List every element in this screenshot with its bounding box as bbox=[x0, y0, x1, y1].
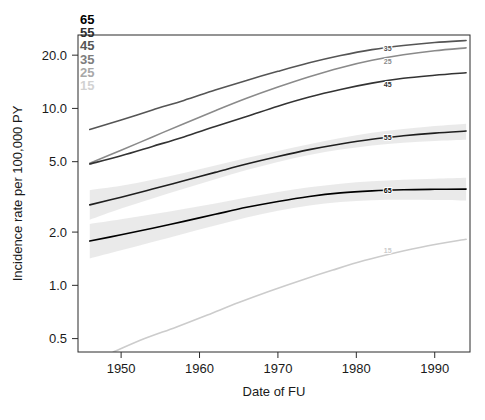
x-tick-label: 1970 bbox=[263, 361, 292, 376]
incidence-rate-line-chart: 19501960197019801990 0.51.02.05.010.020.… bbox=[0, 0, 485, 420]
x-axis-title: Date of FU bbox=[243, 384, 306, 399]
y-axis-group: 0.51.02.05.010.020.0 bbox=[42, 48, 78, 346]
inline-series-label-45: 45 bbox=[384, 81, 392, 88]
legend: 655545352515 bbox=[80, 12, 94, 93]
inline-series-label-55: 55 bbox=[384, 134, 392, 141]
x-tick-label: 1950 bbox=[107, 361, 136, 376]
y-axis-title: Incidence rate per 100,000 PY bbox=[10, 105, 25, 281]
chart-figure: 19501960197019801990 0.51.02.05.010.020.… bbox=[0, 0, 485, 420]
x-tick-label: 1990 bbox=[420, 361, 449, 376]
y-tick-label: 0.5 bbox=[49, 331, 67, 346]
x-axis-group: 19501960197019801990 bbox=[107, 352, 450, 376]
x-tick-label: 1960 bbox=[185, 361, 214, 376]
axis-titles: Date of FUIncidence rate per 100,000 PY bbox=[10, 105, 305, 399]
y-tick-label: 20.0 bbox=[42, 48, 67, 63]
legend-item-15: 15 bbox=[80, 78, 94, 93]
x-tick-label: 1980 bbox=[342, 361, 371, 376]
inline-series-labels: 352545556515 bbox=[384, 45, 392, 254]
y-tick-label: 5.0 bbox=[49, 154, 67, 169]
y-tick-label: 10.0 bbox=[42, 101, 67, 116]
y-tick-label: 2.0 bbox=[49, 225, 67, 240]
inline-series-label-25: 25 bbox=[384, 58, 392, 65]
y-tick-label: 1.0 bbox=[49, 278, 67, 293]
series-line-15 bbox=[113, 239, 466, 352]
inline-series-label-35: 35 bbox=[384, 45, 392, 52]
inline-series-label-15: 15 bbox=[384, 247, 392, 254]
inline-series-label-65: 65 bbox=[384, 187, 392, 194]
